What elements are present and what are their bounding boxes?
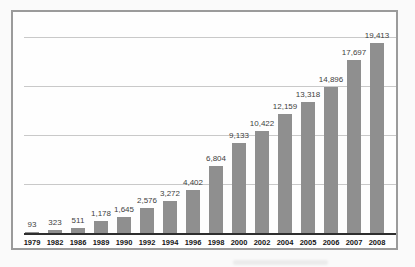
bar-2005 [301,102,315,233]
x-tick-label-1994: 1994 [162,238,179,247]
x-tick-label-1998: 1998 [208,238,225,247]
x-tick-label-1996: 1996 [185,238,202,247]
x-tick-label-2007: 2007 [346,238,363,247]
value-label-1994: 3,272 [160,189,180,199]
value-label-1986: 511 [72,216,85,226]
bar-1992 [140,208,154,233]
value-label-1989: 1,178 [91,209,111,219]
x-tick-label-1986: 1986 [70,238,87,247]
bar-1990 [117,217,131,233]
value-label-2000: 9,133 [229,131,249,141]
x-tick-label-1982: 1982 [47,238,64,247]
x-tick-label-2008: 2008 [369,238,386,247]
x-tick-label-1992: 1992 [139,238,156,247]
gridline-10000 [24,135,396,136]
value-label-2002: 10,422 [250,119,274,129]
value-label-1996: 4,402 [183,178,203,188]
bar-2008 [370,43,384,233]
bar-1989 [94,221,108,233]
bar-chart-figure: 931979323198251119861,17819891,64519902,… [0,0,415,267]
bar-1996 [186,190,200,233]
bar-1994 [163,201,177,233]
bar-2006 [324,87,338,233]
value-label-2008: 19,413 [365,31,389,41]
value-label-1998: 6,804 [206,154,226,164]
value-label-1979: 93 [28,220,37,230]
x-tick-label-2006: 2006 [323,238,340,247]
value-label-1990: 1,645 [114,205,134,215]
x-tick-label-1990: 1990 [116,238,133,247]
x-tick-label-2000: 2000 [231,238,248,247]
x-tick-label-2004: 2004 [277,238,294,247]
value-label-1982: 323 [48,218,61,228]
bar-1998 [209,166,223,233]
gridline-20000 [24,37,396,38]
bar-2004 [278,114,292,233]
gridline-15000 [24,86,396,87]
value-label-2004: 12,159 [273,102,297,112]
bar-2007 [347,60,361,233]
bar-2000 [232,143,246,233]
x-tick-label-2005: 2005 [300,238,317,247]
x-tick-label-2002: 2002 [254,238,271,247]
value-label-1992: 2,576 [137,196,157,206]
bar-2002 [255,131,269,233]
x-tick-label-1979: 1979 [24,238,41,247]
x-axis-line [24,233,396,235]
x-tick-label-1989: 1989 [93,238,110,247]
value-label-2005: 13,318 [296,90,320,100]
value-label-2007: 17,697 [342,48,366,58]
partial-caption-artifact [233,260,328,265]
value-label-2006: 14,896 [319,75,343,85]
plot-area: 931979323198251119861,17819891,64519902,… [0,0,415,267]
